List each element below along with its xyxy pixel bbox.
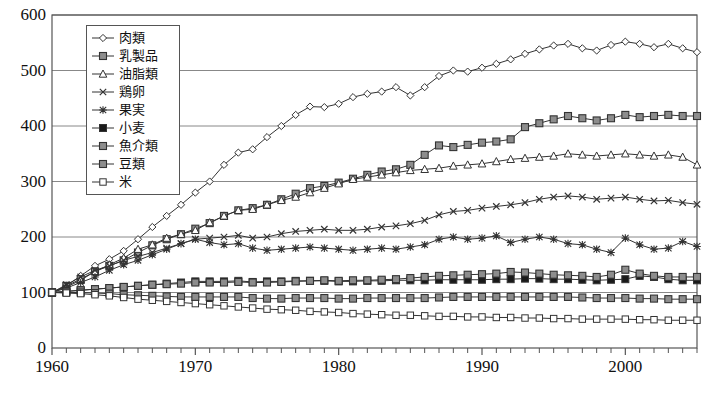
legend-item-label: 魚介類	[116, 138, 158, 154]
legend-item-label: 豆類	[116, 156, 145, 172]
legend-item-9[interactable]: 米	[90, 173, 175, 191]
series-line	[48, 232, 701, 296]
legend-item-8[interactable]: 豆類	[90, 155, 175, 173]
legend-marker-icon	[90, 102, 116, 118]
y-axis-tick-label: 200	[21, 228, 47, 245]
series-line	[49, 289, 700, 323]
y-axis-tick-label: 100	[21, 284, 47, 301]
legend-item-label: 油脂類	[116, 66, 158, 82]
y-axis-tick-label: 500	[21, 62, 47, 79]
legend-marker-icon	[90, 66, 116, 82]
legend-marker-icon	[90, 156, 116, 172]
legend-item-label: 果実	[116, 102, 145, 118]
y-axis-tick-label: 600	[21, 6, 47, 23]
legend-marker-icon	[90, 138, 116, 154]
legend-item-4[interactable]: 鶏卵	[90, 83, 175, 101]
legend-item-6[interactable]: 小麦	[90, 119, 175, 137]
legend-item-7[interactable]: 魚介類	[90, 137, 175, 155]
y-axis-tick-label: 0	[38, 339, 47, 356]
y-axis-tick-label: 400	[21, 117, 47, 134]
x-axis-tick-label: 1970	[165, 358, 225, 375]
legend-item-2[interactable]: 乳製品	[90, 47, 175, 65]
legend-marker-icon	[90, 48, 116, 64]
legend-marker-icon	[90, 30, 116, 46]
legend-item-label: 米	[116, 174, 132, 190]
x-axis-tick-label: 1960	[22, 358, 82, 375]
series-line	[49, 289, 701, 303]
legend-item-1[interactable]: 肉類	[90, 29, 175, 47]
legend-item-3[interactable]: 油脂類	[90, 65, 175, 83]
legend-item-5[interactable]: 果実	[90, 101, 175, 119]
legend-marker-icon	[90, 84, 116, 100]
legend-item-label: 小麦	[116, 120, 145, 136]
legend-item-label: 乳製品	[116, 48, 158, 64]
legend-item-label: 肉類	[116, 30, 145, 46]
legend-marker-icon	[90, 120, 116, 136]
line-chart: 0100200300400500600 19601970198019902000…	[0, 0, 708, 404]
legend-item-label: 鶏卵	[116, 84, 145, 100]
x-axis-tick-label: 2000	[595, 358, 655, 375]
chart-legend[interactable]: 肉類乳製品油脂類鶏卵果実小麦魚介類豆類米	[86, 25, 180, 195]
x-axis-tick-label: 1980	[309, 358, 369, 375]
y-axis-tick-label: 300	[21, 173, 47, 190]
x-axis-ticks	[52, 348, 697, 355]
legend-marker-icon	[90, 174, 116, 190]
x-axis-tick-label: 1990	[452, 358, 512, 375]
